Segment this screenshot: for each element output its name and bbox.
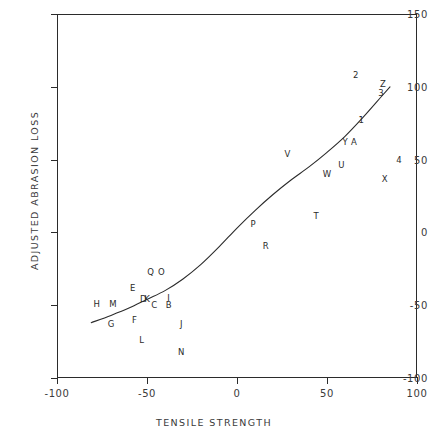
y-axis-title: ADJUSTED ABRASION LOSS	[29, 61, 40, 321]
y-tick-0	[51, 232, 58, 233]
data-point-W: W	[323, 170, 331, 179]
data-point-V: V	[284, 150, 290, 159]
x-tick-label--100: -100	[27, 388, 87, 399]
y-tick-label-50: 50	[382, 154, 428, 165]
x-axis-title: TENSILE STRENGTH	[0, 417, 428, 428]
y-tick-100	[51, 87, 58, 88]
x-tick-50	[327, 377, 328, 384]
x-tick-0	[237, 377, 238, 384]
y-tick-50	[51, 160, 58, 161]
data-point-Y: Y	[342, 138, 347, 147]
data-point-3: 3	[378, 88, 383, 97]
data-point-F: F	[132, 316, 137, 325]
data-point-U: U	[338, 161, 344, 170]
data-point-2: 2	[353, 71, 358, 80]
x-tick-label-50: 50	[297, 388, 357, 399]
abrasion-loss-scatter-figure: ADJUSTED ABRASION LOSS TENSILE STRENGTH …	[0, 0, 428, 429]
y-tick--50	[51, 305, 58, 306]
data-point-K: K	[144, 295, 150, 304]
y-tick-label-150: 150	[382, 9, 428, 20]
y-tick-150	[51, 14, 58, 15]
x-tick--100	[57, 377, 58, 384]
x-tick-label--50: -50	[117, 388, 177, 399]
data-point-J: J	[180, 320, 183, 329]
y-tick-label--50: -50	[382, 300, 428, 311]
data-point-G: G	[108, 320, 115, 329]
y-tick-label-0: 0	[382, 227, 428, 238]
data-point-O: O	[158, 267, 165, 276]
x-tick-100	[417, 377, 418, 384]
data-point-Q: Q	[147, 267, 154, 276]
y-tick-label-100: 100	[382, 81, 428, 92]
data-point-1: 1	[358, 116, 363, 125]
data-point-H: H	[93, 299, 99, 308]
x-tick--50	[147, 377, 148, 384]
data-point-P: P	[251, 219, 256, 228]
data-point-N: N	[178, 348, 184, 357]
data-point-L: L	[139, 336, 144, 345]
data-point-E: E	[130, 283, 135, 292]
data-point-R: R	[263, 241, 269, 250]
data-point-C: C	[151, 301, 157, 310]
data-point-T: T	[314, 212, 319, 221]
data-point-4: 4	[396, 155, 401, 164]
x-tick-label-100: 100	[387, 388, 428, 399]
y-tick-label--100: -100	[382, 373, 428, 384]
data-point-M: M	[109, 299, 116, 308]
data-point-A: A	[351, 138, 357, 147]
x-tick-label-0: 0	[207, 388, 267, 399]
data-point-X: X	[382, 174, 388, 183]
data-point-I: I	[167, 294, 170, 303]
